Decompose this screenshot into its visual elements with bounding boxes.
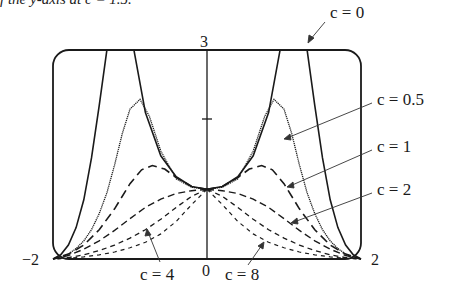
curve-2-right — [207, 189, 361, 259]
y-tick-label-3: 3 — [200, 34, 208, 50]
curve-2-left — [53, 189, 207, 259]
label-c0: c = 0 — [330, 4, 364, 21]
label-c4: c = 4 — [140, 266, 174, 283]
curve-4-left — [53, 189, 207, 259]
label-c2: c = 2 — [377, 181, 411, 198]
label-c05: c = 0.5 — [377, 91, 424, 108]
label-c1: c = 1 — [377, 138, 411, 155]
x-tick-label-2: 2 — [371, 252, 379, 268]
x-tick-label-neg2: −2 — [22, 252, 39, 268]
curve-8-left — [53, 189, 207, 259]
curve-0-left — [53, 50, 207, 259]
label-c8: c = 8 — [225, 266, 259, 283]
x-tick-label-0: 0 — [202, 263, 210, 279]
curve-0_5-left — [53, 99, 207, 259]
curve-0_5-right — [207, 99, 361, 259]
curve-8-right — [207, 189, 361, 259]
curve-0-right — [207, 50, 361, 259]
curve-4-right — [207, 189, 361, 259]
